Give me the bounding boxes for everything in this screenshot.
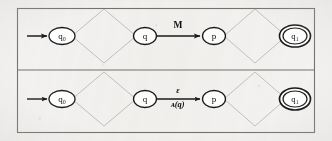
automaton-figure: q₀ q p q₁ M	[0, 0, 332, 141]
state-label-q1: q₁	[291, 31, 298, 41]
state-label-q1: q₁	[291, 94, 298, 104]
top-panel: q₀ q p q₁ M	[27, 9, 311, 63]
state-node-q0: q₀	[49, 91, 75, 108]
state-node-q: q	[134, 91, 157, 108]
state-label-p: p	[212, 31, 217, 41]
diamond-subautomaton-right	[224, 9, 286, 63]
state-label-q0: q₀	[58, 31, 66, 41]
state-label-q: q	[143, 94, 148, 104]
state-node-q0: q₀	[49, 28, 75, 45]
state-node-p: p	[203, 91, 226, 108]
transition-label-M: M	[174, 20, 183, 30]
transition-label-epsilon: ε	[176, 85, 180, 95]
diamond-subautomaton-right	[224, 72, 286, 126]
state-label-q: q	[143, 31, 148, 41]
diamond-subautomaton-left	[72, 9, 136, 63]
figure-canvas: q₀ q p q₁ M	[0, 0, 332, 141]
state-label-q0: q₀	[58, 94, 66, 104]
state-node-q1-accepting: q₁	[280, 25, 311, 47]
transition-label-automaton-of-q: ᴀ(q)	[170, 99, 185, 109]
state-label-p: p	[212, 94, 217, 104]
bottom-panel: q₀ q p q₁ ε ᴀ(q)	[27, 72, 311, 126]
state-node-q1-accepting: q₁	[280, 88, 311, 110]
state-node-q: q	[134, 28, 157, 45]
state-node-p: p	[203, 28, 226, 45]
diamond-subautomaton-left	[72, 72, 136, 126]
